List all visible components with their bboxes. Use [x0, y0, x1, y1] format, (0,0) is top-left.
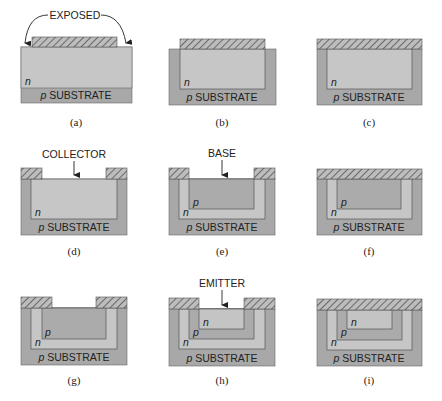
- n-label: n: [331, 206, 337, 218]
- bjt-fabrication-diagram: EXPOSED n p SUBSTRATE (a) n p SUBSTRATE …: [0, 0, 442, 401]
- n-label: n: [35, 206, 41, 218]
- n-label: n: [35, 336, 41, 348]
- exposed-label: EXPOSED: [50, 9, 101, 21]
- panel-i: n p n p SUBSTRATE (i): [317, 299, 422, 387]
- substrate-label: p SUBSTRATE: [186, 91, 258, 103]
- panel-g: p n p SUBSTRATE (g): [21, 297, 127, 387]
- p-base-region: [42, 308, 106, 339]
- n-label: n: [25, 75, 31, 87]
- oxide-left: [169, 298, 199, 309]
- p-label: p: [192, 196, 199, 208]
- oxide-layer: [317, 169, 422, 179]
- collector-label: COLLECTOR: [42, 148, 106, 160]
- panel-c: n p SUBSTRATE (c): [317, 39, 422, 129]
- substrate-label: p SUBSTRATE: [186, 352, 258, 364]
- substrate-label: p SUBSTRATE: [38, 221, 110, 233]
- panel-e: BASE p n p SUBSTRATE (e): [169, 147, 275, 258]
- n-layer: [21, 47, 132, 88]
- oxide-mask: [32, 37, 117, 47]
- n-label: n: [331, 336, 337, 348]
- panel-h: EMITTER n p n p SUBSTRATE (h): [169, 277, 275, 387]
- caption-e: (e): [216, 245, 229, 258]
- oxide-left: [21, 168, 42, 179]
- oxide-mask: [180, 39, 265, 49]
- panel-b: n p SUBSTRATE (b): [169, 39, 276, 129]
- oxide-left: [21, 297, 52, 308]
- caption-b: (b): [216, 116, 229, 129]
- caption-h: (h): [216, 374, 229, 387]
- substrate-label: p SUBSTRATE: [333, 91, 405, 103]
- caption-f: (f): [364, 245, 375, 258]
- n-label: n: [183, 336, 189, 348]
- caption-d: (d): [68, 245, 81, 258]
- p-label: p: [192, 326, 199, 338]
- n-emitter-label: n: [203, 316, 209, 328]
- substrate-label: p SUBSTRATE: [38, 351, 110, 363]
- oxide-right: [254, 168, 275, 179]
- substrate-label: p SUBSTRATE: [40, 89, 112, 101]
- substrate-label: p SUBSTRATE: [333, 221, 405, 233]
- n-region: [180, 49, 265, 89]
- n-emitter-label: n: [351, 316, 357, 328]
- caption-a: (a): [70, 116, 83, 129]
- p-label: p: [340, 196, 347, 208]
- n-label: n: [331, 76, 337, 88]
- oxide-layer: [317, 299, 422, 310]
- n-label: n: [184, 76, 190, 88]
- oxide-right: [106, 168, 127, 179]
- oxide-layer: [317, 39, 422, 49]
- panel-d: COLLECTOR n p SUBSTRATE (d): [21, 148, 127, 258]
- oxide-right: [96, 297, 127, 308]
- base-label: BASE: [208, 147, 236, 159]
- panel-a: EXPOSED n p SUBSTRATE (a): [21, 9, 132, 129]
- substrate-label: p SUBSTRATE: [186, 221, 258, 233]
- n-region: [327, 49, 412, 89]
- n-region: [31, 179, 117, 219]
- substrate-label: p SUBSTRATE: [333, 352, 405, 364]
- emitter-label: EMITTER: [199, 277, 245, 289]
- n-label: n: [183, 206, 189, 218]
- caption-c: (c): [363, 116, 376, 129]
- panel-f: p n p SUBSTRATE (f): [317, 169, 422, 258]
- p-label: p: [340, 326, 347, 338]
- oxide-left: [169, 168, 189, 179]
- caption-g: (g): [68, 374, 81, 387]
- p-label: p: [44, 326, 51, 338]
- caption-i: (i): [364, 374, 375, 387]
- oxide-right: [244, 298, 275, 309]
